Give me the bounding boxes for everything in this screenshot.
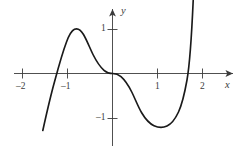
function-curve — [43, 1, 193, 131]
plot-canvas — [0, 0, 246, 156]
x-tick-label-minus1: –1 — [61, 82, 71, 92]
y-axis-label: y — [121, 6, 126, 17]
y-tick-label-1: 1 — [101, 24, 106, 34]
x-axis-label: x — [225, 80, 230, 91]
x-tick-label-2: 2 — [200, 82, 205, 92]
x-tick-label-1: 1 — [155, 82, 160, 92]
y-tick-label-minus1: –1 — [96, 113, 106, 123]
x-tick-label-minus2: –2 — [16, 82, 26, 92]
function-graph-figure: –2 –1 1 2 1 –1 x y — [0, 0, 246, 156]
